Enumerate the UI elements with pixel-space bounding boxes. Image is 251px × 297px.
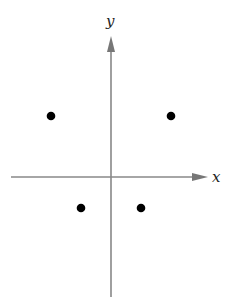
point-quadrant-4 [137, 204, 146, 213]
y-axis-label: y [105, 12, 115, 30]
y-axis-arrow-icon [107, 36, 115, 52]
x-axis-arrow-icon [192, 173, 208, 181]
coordinate-plane: y x [0, 0, 251, 297]
point-quadrant-2 [47, 112, 56, 121]
point-quadrant-3 [77, 204, 86, 213]
point-quadrant-1 [167, 112, 176, 121]
x-axis-label: x [212, 168, 221, 186]
